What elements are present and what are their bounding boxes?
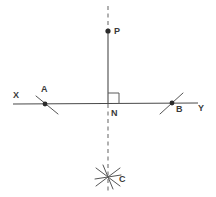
label-b: B [176,104,183,114]
label-y: Y [198,103,204,113]
label-a: A [41,84,48,94]
geometry-figure: X Y A B N P C [0,0,216,197]
arc-at-c-4 [95,175,121,179]
label-p: P [114,26,120,36]
label-x: X [13,90,19,100]
label-c: C [119,174,126,184]
right-angle-marker-icon [108,93,119,104]
label-n: N [111,108,118,118]
point-dot-b [170,101,175,106]
point-dot-p [105,28,110,33]
figure-canvas: X Y A B N P C [0,0,216,197]
point-dot-a [43,102,48,107]
